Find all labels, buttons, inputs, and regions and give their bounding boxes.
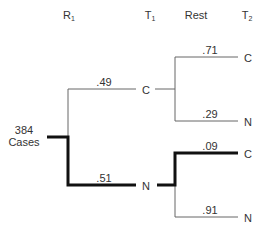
prob-nc: .09 xyxy=(202,140,217,152)
prob-cn: .29 xyxy=(202,108,217,120)
node-bottom: N xyxy=(142,180,150,192)
header-t2: T2 xyxy=(242,9,253,25)
header-rest: Rest xyxy=(185,9,208,21)
leaf-cn: N xyxy=(244,116,252,128)
root-count: 384 xyxy=(8,124,39,136)
prob-cc: .71 xyxy=(202,44,217,56)
leaf-nc: C xyxy=(244,148,252,160)
prob-bottom: .51 xyxy=(96,172,111,184)
leaf-nn: N xyxy=(244,212,252,224)
root-label: Cases xyxy=(8,136,39,148)
tree-lines xyxy=(0,0,268,228)
prob-nn: .91 xyxy=(202,204,217,216)
prob-top: .49 xyxy=(96,76,111,88)
header-r1: R1 xyxy=(63,9,75,25)
header-t1: T1 xyxy=(145,9,156,25)
root-node: 384 Cases xyxy=(8,124,39,148)
node-top: C xyxy=(142,84,150,96)
leaf-cc: C xyxy=(244,52,252,64)
